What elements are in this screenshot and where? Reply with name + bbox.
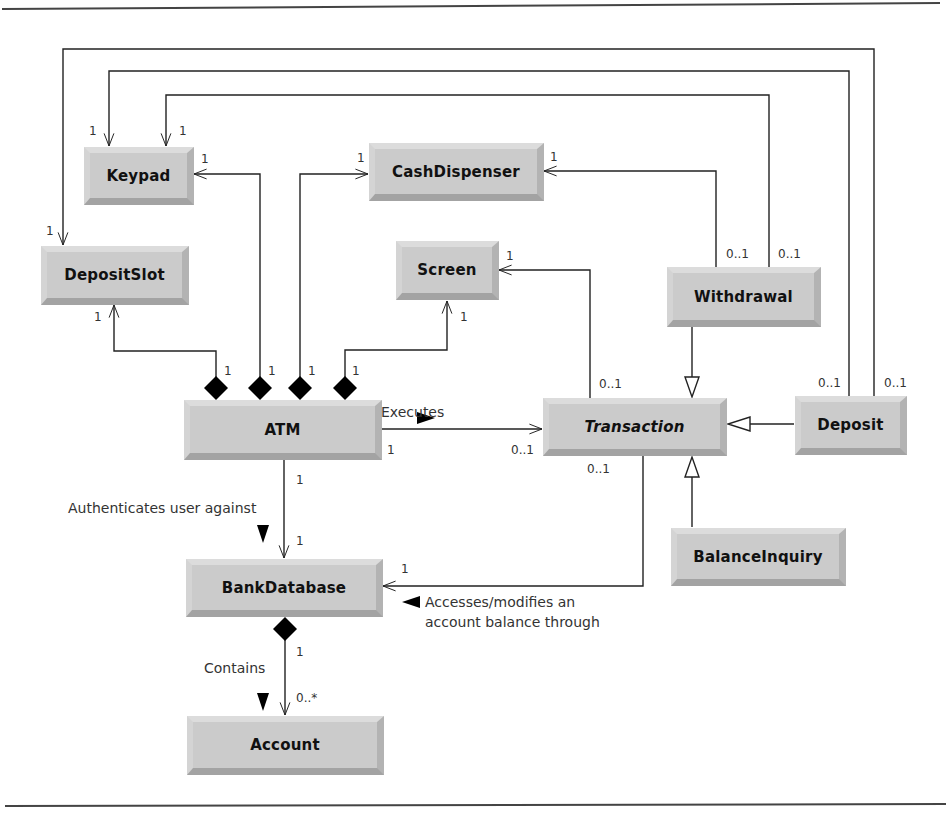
mult-account-contains: 0..* xyxy=(296,691,317,705)
authenticates-direction-arrow xyxy=(257,525,269,543)
deposit-to-depositslot-line xyxy=(63,49,874,396)
mult-atm-executes: 1 xyxy=(387,443,395,457)
mult-screen-atm: 1 xyxy=(460,310,468,324)
mult-withdrawal-keypad: 0..1 xyxy=(778,247,801,261)
accesses-label-line2: account balance through xyxy=(425,614,600,630)
mult-bankdatabase-transaction: 1 xyxy=(401,562,409,576)
mult-transaction-screen: 0..1 xyxy=(599,377,622,391)
mult-deposit-keypad: 0..1 xyxy=(818,376,841,390)
mult-transaction-bankdatabase: 0..1 xyxy=(587,462,610,476)
mult-depositslot-deposit: 1 xyxy=(46,224,54,238)
mult-deposit-depositslot: 0..1 xyxy=(884,376,907,390)
class-atm[interactable]: ATM xyxy=(184,400,382,460)
mult-atm-cashdispenser-end: 1 xyxy=(308,364,316,378)
uml-class-diagram: Keypad CashDispenser DepositSlot Screen … xyxy=(0,0,952,821)
class-deposit-slot[interactable]: DepositSlot xyxy=(41,246,189,305)
accesses-label-line1: Accesses/modifies an xyxy=(425,594,575,610)
mult-keypad-atm: 1 xyxy=(201,152,209,166)
mult-bankdatabase-contains: 1 xyxy=(296,645,304,659)
mult-cashdispenser-withdrawal: 1 xyxy=(550,150,558,164)
class-bank-database[interactable]: BankDatabase xyxy=(186,559,383,617)
class-keypad[interactable]: Keypad xyxy=(84,147,194,205)
transaction-to-screen-line xyxy=(499,270,590,398)
mult-transaction-executes: 0..1 xyxy=(511,443,534,457)
generalization-withdrawal-triangle xyxy=(685,377,699,397)
composition-diamond-depositslot xyxy=(204,376,228,400)
atm-to-cashdispenser-line xyxy=(300,174,368,388)
composition-diamond-account xyxy=(273,617,297,641)
mult-atm-screen-end: 1 xyxy=(352,364,360,378)
withdrawal-to-cashdispenser-line xyxy=(544,171,716,267)
generalization-deposit-triangle xyxy=(728,417,750,431)
atm-to-keypad-line xyxy=(194,174,260,388)
atm-to-screen-line xyxy=(345,301,447,388)
accesses-direction-arrow xyxy=(402,596,420,608)
contains-direction-arrow xyxy=(257,693,269,711)
class-withdrawal[interactable]: Withdrawal xyxy=(667,267,821,327)
generalization-balanceinquiry-triangle xyxy=(685,457,699,477)
mult-atm-keypad-end: 1 xyxy=(268,364,276,378)
deposit-to-keypad-line xyxy=(109,71,849,396)
mult-keypad-deposit: 1 xyxy=(89,124,97,138)
class-account[interactable]: Account xyxy=(187,716,384,775)
authenticates-label: Authenticates user against xyxy=(68,500,256,516)
executes-label: Executes xyxy=(381,404,444,420)
mult-withdrawal-cashdispenser: 0..1 xyxy=(726,247,749,261)
composition-diamond-cashdispenser xyxy=(288,376,312,400)
composition-diamond-keypad xyxy=(248,376,272,400)
class-screen[interactable]: Screen xyxy=(396,241,499,300)
class-transaction[interactable]: Transaction xyxy=(543,398,727,456)
composition-diamond-screen xyxy=(333,376,357,400)
top-rule xyxy=(2,3,940,9)
mult-screen-transaction: 1 xyxy=(506,249,514,263)
bottom-rule xyxy=(5,804,946,806)
mult-atm-depositslot-end: 1 xyxy=(224,364,232,378)
class-balance-inquiry[interactable]: BalanceInquiry xyxy=(671,528,846,586)
mult-atm-bankdatabase: 1 xyxy=(296,473,304,487)
class-cash-dispenser[interactable]: CashDispenser xyxy=(369,143,544,201)
mult-depositslot-atm: 1 xyxy=(94,310,102,324)
class-deposit[interactable]: Deposit xyxy=(795,396,907,455)
mult-cashdispenser-atm: 1 xyxy=(357,151,365,165)
mult-bankdatabase-atm: 1 xyxy=(296,534,304,548)
contains-label: Contains xyxy=(204,660,265,676)
mult-keypad-withdrawal: 1 xyxy=(179,124,187,138)
atm-to-depositslot-line xyxy=(114,305,216,388)
